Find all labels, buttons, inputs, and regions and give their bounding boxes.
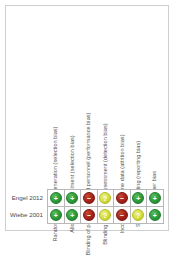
risk-low-icon: +: [149, 192, 161, 204]
column-header-label: Blinding of outcome assessment (detectio…: [102, 123, 108, 244]
judgement-cell: −: [114, 207, 131, 224]
study-label: Wiebe 2001: [2, 206, 46, 223]
column-header-5: Selective reporting (reporting bias): [130, 8, 147, 187]
risk-low-icon: +: [66, 209, 78, 221]
risk-low-icon: +: [50, 209, 62, 221]
study-label: Engel 2012: [2, 189, 46, 206]
column-header-6: Other bias: [146, 8, 163, 187]
column-header-2: Blinding of participants and personnel (…: [80, 8, 97, 187]
judgement-cell: −: [81, 190, 98, 207]
column-header-label: Blinding of participants and personnel (…: [85, 113, 91, 255]
risk-unclear-icon: ?: [99, 209, 111, 221]
risk-low-icon: +: [132, 192, 144, 204]
column-header-3: Blinding of outcome assessment (detectio…: [97, 8, 114, 187]
table-row: ++−?−++: [48, 190, 164, 207]
judgement-cell: −: [114, 190, 131, 207]
risk-high-icon: −: [83, 209, 95, 221]
risk-high-icon: −: [116, 192, 128, 204]
risk-low-icon: +: [149, 209, 161, 221]
table-row: ++−?−?+: [48, 207, 164, 224]
risk-low-icon: +: [66, 192, 78, 204]
column-header-0: Random sequence generation (selection bi…: [47, 8, 64, 187]
judgement-cell: +: [65, 207, 82, 224]
risk-low-icon: +: [50, 192, 62, 204]
judgement-cell: +: [48, 207, 65, 224]
judgement-cell: ?: [98, 207, 115, 224]
judgement-cell: +: [65, 190, 82, 207]
risk-high-icon: −: [83, 192, 95, 204]
judgement-cell: +: [147, 190, 164, 207]
judgement-cell: +: [131, 190, 148, 207]
study-label-column: Engel 2012Wiebe 2001: [2, 189, 46, 223]
risk-high-icon: −: [116, 209, 128, 221]
judgement-cell: +: [48, 190, 65, 207]
judgement-cell: ?: [131, 207, 148, 224]
risk-unclear-icon: ?: [132, 209, 144, 221]
risk-of-bias-grid: ++−?−++++−?−?+: [47, 189, 164, 224]
column-header-1: Allocation concealment (selection bias): [64, 8, 81, 187]
judgement-cell: −: [81, 207, 98, 224]
column-header-4: Incomplete outcome data (attrition bias): [113, 8, 130, 187]
judgement-cell: ?: [98, 190, 115, 207]
column-header-label: Random sequence generation (selection bi…: [52, 127, 58, 242]
risk-unclear-icon: ?: [99, 192, 111, 204]
judgement-cell: +: [147, 207, 164, 224]
column-header-band: Random sequence generation (selection bi…: [47, 8, 163, 187]
